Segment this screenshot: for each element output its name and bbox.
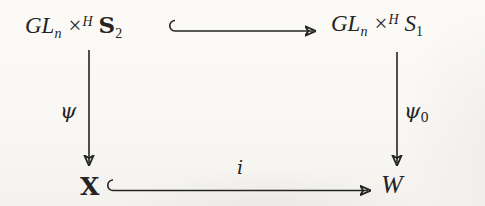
label-psi0: ψ0: [404, 99, 429, 123]
label-psi0-sub: 0: [420, 110, 428, 125]
node-top-right: GLn×HS1: [331, 11, 423, 37]
node-top-right-base: GL: [331, 11, 360, 36]
node-bottom-right: W: [381, 170, 403, 200]
label-psi: ψ: [60, 99, 76, 123]
node-top-left-op-sup: H: [82, 14, 92, 29]
bottom-inclusion-arrow: [108, 180, 368, 191]
node-top-left-base-sub: n: [54, 26, 61, 41]
top-inclusion-arrow: [170, 21, 313, 32]
node-top-left-set: S: [99, 11, 116, 38]
label-psi0-base: ψ: [404, 99, 420, 123]
label-i: i: [237, 156, 243, 178]
node-top-left-set-sub: 2: [115, 26, 122, 41]
times-sign: ×: [68, 13, 81, 38]
node-top-right-set-sub: 1: [416, 24, 423, 39]
node-bottom-left: X: [80, 172, 99, 201]
node-top-left: GLn×HS2: [25, 11, 122, 39]
times-sign: ×: [374, 11, 387, 36]
commutative-diagram: GLn×HS2 GLn×HS1 X W ψ ψ0 i: [0, 0, 485, 206]
node-top-right-set: S: [405, 11, 417, 36]
node-top-right-base-sub: n: [360, 24, 367, 39]
node-top-right-op-sup: H: [388, 12, 398, 27]
node-top-left-base: GL: [25, 13, 54, 38]
